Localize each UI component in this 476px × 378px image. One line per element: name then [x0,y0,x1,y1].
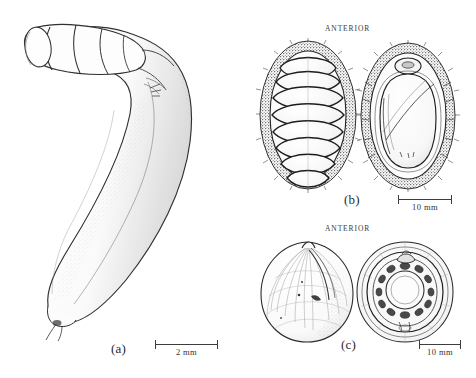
panel-a-label: (a) [111,341,126,357]
scale-bar-b: 10 mm [398,199,452,213]
scale-bar-a-line [155,344,218,345]
scale-bar-c-label: 10 mm [419,347,461,357]
panel-c-exterior-illustration [255,238,360,346]
panel-c-interior-illustration [353,240,458,344]
scale-bar-a-label: 2 mm [155,347,218,357]
anterior-label-c: ANTERIOR [325,224,370,233]
scale-bar-a: 2 mm [155,344,218,358]
scale-bar-c: 10 mm [419,344,461,358]
panel-a-illustration [18,22,238,342]
panel-c-label: (c) [341,337,356,353]
panel-b-label: (b) [344,192,360,208]
figure-plate: (a) 2 mm ANTERIOR [0,0,476,378]
scale-bar-b-label: 10 mm [398,202,452,212]
scale-bar-c-line [419,344,461,345]
panel-b-dorsal-illustration [256,38,361,193]
panel-b-ventral-illustration [356,40,461,192]
scale-bar-b-line [398,199,452,200]
anterior-label-b: ANTERIOR [325,24,370,33]
